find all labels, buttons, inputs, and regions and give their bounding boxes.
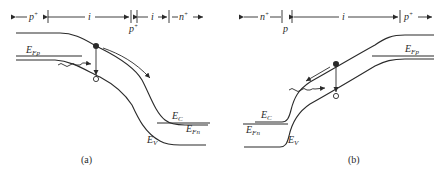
- region-label-i-2: i: [151, 11, 154, 22]
- photon-wave-b: [289, 88, 325, 92]
- region-label-p-plus-b: p+: [403, 11, 413, 22]
- band-diagram-figure: p+ i p+ i n+ EFp EC EFn EV (a): [0, 0, 448, 179]
- conduction-band-a: [16, 33, 208, 125]
- electron-icon: [93, 43, 99, 49]
- label-ev-b: EV: [287, 134, 299, 147]
- valence-band-a: [16, 60, 206, 145]
- panel-b: n+ p i p+ EFp EC EFn EV (b): [243, 10, 434, 166]
- label-ev-a: EV: [146, 134, 158, 147]
- label-efp-a: EFp: [25, 44, 40, 57]
- region-label-i-b: i: [342, 11, 345, 22]
- region-label-p-plus: p+: [28, 11, 38, 22]
- region-label-i: i: [88, 11, 91, 22]
- label-efn-b: EFn: [245, 124, 260, 137]
- electron-drift-arrow-a: [103, 48, 150, 78]
- valence-band-b: [244, 59, 434, 147]
- region-label-p-plus-thin: p+: [128, 23, 138, 34]
- label-ec-a: EC: [171, 110, 183, 123]
- hole-icon-b: [333, 93, 338, 98]
- caption-b: (b): [348, 154, 360, 166]
- region-label-n-plus-b: n+: [260, 11, 269, 22]
- electron-drift-arrow-b: [306, 67, 330, 81]
- panel-a: p+ i p+ i n+ EFp EC EFn EV (a): [16, 10, 210, 166]
- electron-icon-b: [333, 61, 339, 67]
- caption-a: (a): [81, 154, 92, 166]
- hole-icon: [93, 76, 98, 81]
- region-bar-b: n+ p i p+: [244, 10, 432, 34]
- label-ec-b: EC: [260, 109, 272, 122]
- region-bar-a: p+ i p+ i n+: [16, 10, 203, 34]
- region-label-n-plus: n+: [179, 11, 188, 22]
- region-label-p-b: p: [282, 23, 288, 34]
- label-efp-b: EFp: [404, 43, 419, 56]
